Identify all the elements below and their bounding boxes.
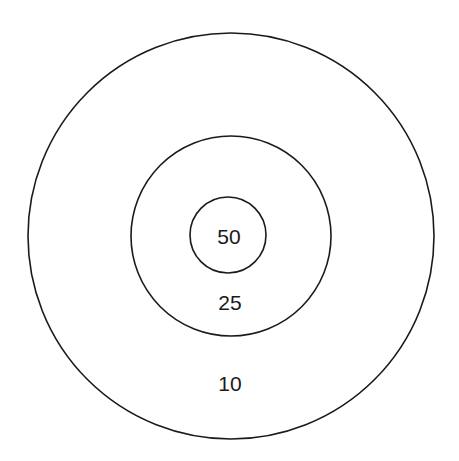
inner-score-label: 50 [217,225,240,248]
middle-score-label: 25 [218,291,241,314]
outer-score-label: 10 [218,372,241,395]
target-diagram: 50 25 10 [0,0,459,461]
